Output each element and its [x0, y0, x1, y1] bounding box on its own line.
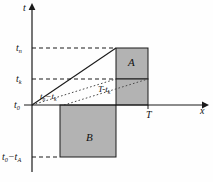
tick-label-T: T [146, 110, 152, 120]
tick-label-t0-minus-ta: t0−tA [2, 152, 21, 163]
region-label-b: B [86, 132, 93, 143]
region-t-minus-tk-rect [116, 79, 148, 105]
tick-label-t0-sub: 0 [17, 104, 20, 111]
figure-canvas: t x tn tk t0 t0−tA T A B tn−tk T-tk [0, 0, 213, 182]
tick-label-t0ta-mid: −t [8, 151, 18, 162]
tick-label-tn-sub: n [19, 47, 22, 54]
segment-T-sub: k [108, 89, 110, 95]
segment-tk-sub: k [54, 96, 56, 102]
segment-label-tn-minus-tk: tn−tk [40, 92, 56, 102]
segment-label-T-minus-tk: T-tk [98, 85, 110, 95]
tick-label-tn: tn [16, 43, 22, 54]
t-axis-label: t [23, 3, 26, 13]
region-label-a: A [128, 57, 135, 68]
t-axis-arrowhead [29, 3, 36, 10]
tick-label-t0: t0 [14, 100, 20, 111]
tick-label-tk: tk [16, 74, 22, 85]
x-axis-label: x [200, 106, 204, 116]
tick-label-t0ta-subA: A [17, 156, 21, 163]
tick-label-tk-sub: k [19, 78, 22, 85]
